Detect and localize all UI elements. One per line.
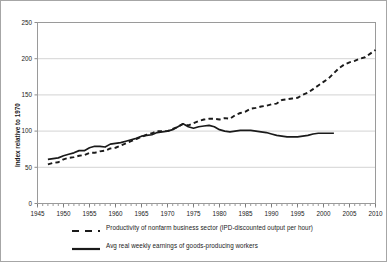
svg-text:1960: 1960 — [108, 210, 123, 217]
svg-text:50: 50 — [25, 164, 33, 171]
legend-label-productivity: Productivity of nonfarm business sector … — [106, 224, 313, 231]
svg-text:1955: 1955 — [82, 210, 97, 217]
svg-text:250: 250 — [21, 19, 32, 26]
svg-text:2005: 2005 — [342, 210, 357, 217]
svg-text:1975: 1975 — [186, 210, 201, 217]
svg-text:1995: 1995 — [290, 210, 305, 217]
svg-text:1945: 1945 — [30, 210, 45, 217]
svg-text:1950: 1950 — [56, 210, 71, 217]
legend-item-earnings: Avg real weekly earnings of goods-produc… — [71, 238, 258, 252]
y-tick-group: 050100150200250 — [21, 19, 37, 207]
series-layer — [48, 50, 376, 164]
legend-label-earnings: Avg real weekly earnings of goods-produc… — [106, 242, 258, 249]
chart-legend: Productivity of nonfarm business sector … — [1, 217, 387, 261]
svg-text:2000: 2000 — [316, 210, 331, 217]
chart-figure: Index relative to 1970 050100150200250 1… — [0, 0, 387, 262]
svg-text:150: 150 — [21, 91, 32, 98]
svg-text:200: 200 — [21, 55, 32, 62]
svg-text:2010: 2010 — [368, 210, 383, 217]
svg-text:1970: 1970 — [160, 210, 175, 217]
gridlines — [38, 23, 376, 168]
legend-swatch-solid — [71, 240, 101, 250]
svg-text:0: 0 — [28, 200, 32, 207]
svg-text:1965: 1965 — [134, 210, 149, 217]
svg-text:100: 100 — [21, 127, 32, 134]
x-tick-group: 1945195019551960196519701975198019851990… — [30, 204, 383, 217]
svg-text:1990: 1990 — [264, 210, 279, 217]
legend-item-productivity: Productivity of nonfarm business sector … — [71, 220, 313, 234]
legend-swatch-dashed — [71, 222, 101, 232]
svg-text:1985: 1985 — [238, 210, 253, 217]
svg-text:1980: 1980 — [212, 210, 227, 217]
plot-frame — [38, 23, 376, 204]
